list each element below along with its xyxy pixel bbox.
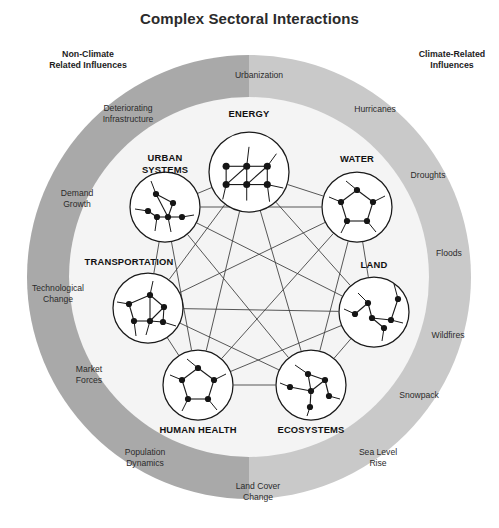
sector-label-land: LAND bbox=[361, 259, 388, 270]
mini-node-urban-systems-0 bbox=[153, 191, 159, 197]
ring-label-droughts: Droughts bbox=[411, 170, 446, 180]
mini-node-land-0 bbox=[365, 300, 371, 306]
sector-node-human-health[interactable] bbox=[163, 350, 233, 420]
mini-node-ecosystems-1 bbox=[287, 384, 293, 390]
sector-node-ecosystems[interactable] bbox=[276, 350, 346, 420]
climate-related-influences-heading: Climate-RelatedInfluences bbox=[419, 49, 485, 70]
sector-circle-energy[interactable] bbox=[209, 132, 289, 212]
ring-label-snowpack: Snowpack bbox=[399, 390, 439, 400]
figure-root: Complex Sectoral Interactions Non-Climat… bbox=[0, 0, 499, 528]
mini-node-urban-systems-2 bbox=[145, 208, 151, 214]
mini-node-land-2 bbox=[381, 325, 387, 331]
mini-node-transportation-4 bbox=[147, 318, 153, 324]
mini-node-ecosystems-4 bbox=[326, 393, 332, 399]
sector-interactions-diagram: Non-ClimateRelated Influences Climate-Re… bbox=[0, 0, 499, 528]
sector-circle-human-health[interactable] bbox=[163, 350, 233, 420]
mini-node-energy-2 bbox=[264, 163, 271, 170]
sector-label-human-health: HUMAN HEALTH bbox=[159, 424, 236, 435]
mini-node-water-0 bbox=[354, 187, 360, 193]
mini-node-land-1 bbox=[352, 311, 358, 317]
mini-node-transportation-1 bbox=[126, 301, 132, 307]
mini-node-transportation-3 bbox=[131, 318, 137, 324]
mini-node-land-3 bbox=[395, 296, 401, 302]
mini-node-urban-systems-4 bbox=[165, 214, 171, 220]
mini-node-energy-0 bbox=[223, 163, 230, 170]
mini-node-water-1 bbox=[370, 199, 376, 205]
sector-node-transportation[interactable] bbox=[113, 273, 183, 343]
ring-label-hurricanes: Hurricanes bbox=[354, 104, 396, 114]
sector-circle-water[interactable] bbox=[322, 172, 392, 242]
sector-circle-transportation[interactable] bbox=[113, 273, 183, 343]
sector-circle-urban-systems[interactable] bbox=[130, 172, 200, 242]
sector-label-transportation: TRANSPORTATION bbox=[85, 256, 174, 267]
sector-label-urban-systems: URBANSYSTEMS bbox=[142, 152, 188, 175]
mini-node-transportation-2 bbox=[161, 304, 167, 310]
mini-node-human-health-3 bbox=[185, 396, 191, 402]
mini-node-land-4 bbox=[388, 317, 394, 323]
mini-node-energy-1 bbox=[243, 163, 250, 170]
mini-node-urban-systems-1 bbox=[170, 200, 176, 206]
mini-node-energy-3 bbox=[223, 181, 230, 188]
ring-label-population-dynamics: PopulationDynamics bbox=[125, 447, 166, 468]
mini-node-transportation-0 bbox=[147, 292, 153, 298]
mini-node-human-health-2 bbox=[205, 396, 211, 402]
mini-node-human-health-0 bbox=[195, 365, 201, 371]
sector-label-ecosystems: ECOSYSTEMS bbox=[277, 424, 344, 435]
sector-node-energy[interactable] bbox=[209, 132, 289, 212]
ring-label-deteriorating-infrastructure: DeterioratingInfrastructure bbox=[103, 103, 154, 124]
sector-label-energy: ENERGY bbox=[229, 108, 270, 119]
sector-node-water[interactable] bbox=[322, 172, 392, 242]
mini-node-ecosystems-0 bbox=[305, 371, 311, 377]
mini-node-land-5 bbox=[369, 315, 375, 321]
ring-label-floods: Floods bbox=[436, 248, 462, 258]
mini-node-water-2 bbox=[364, 218, 370, 224]
mini-node-ecosystems-5 bbox=[307, 404, 313, 410]
mini-node-urban-systems-5 bbox=[179, 214, 185, 220]
mini-node-ecosystems-3 bbox=[322, 377, 328, 383]
outer-ring bbox=[27, 55, 471, 499]
ring-label-wildfires: Wildfires bbox=[432, 330, 465, 340]
mini-node-human-health-4 bbox=[179, 377, 185, 383]
sector-node-land[interactable] bbox=[339, 277, 409, 347]
sector-node-urban-systems[interactable] bbox=[130, 172, 200, 242]
ring-label-urbanization: Urbanization bbox=[235, 70, 283, 80]
ring-label-market-forces: MarketForces bbox=[76, 364, 103, 385]
non-climate-influences-heading: Non-ClimateRelated Influences bbox=[49, 49, 127, 70]
ring-label-demand-growth: DemandGrowth bbox=[61, 188, 94, 209]
mini-node-transportation-5 bbox=[160, 319, 166, 325]
mini-node-human-health-1 bbox=[211, 377, 217, 383]
mini-node-ecosystems-2 bbox=[308, 388, 314, 394]
mini-node-water-3 bbox=[344, 218, 350, 224]
mini-node-energy-4 bbox=[243, 181, 250, 188]
mini-node-water-4 bbox=[338, 199, 344, 205]
mini-node-energy-5 bbox=[264, 181, 271, 188]
sector-label-water: WATER bbox=[340, 153, 374, 164]
mini-node-urban-systems-3 bbox=[154, 214, 160, 220]
